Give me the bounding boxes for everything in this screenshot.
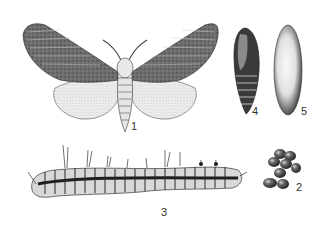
label-eggs: 2	[296, 182, 302, 193]
life-cycle-illustration	[0, 0, 326, 236]
caterpillar	[28, 145, 247, 197]
adult-moth	[23, 24, 218, 132]
pupa	[234, 28, 259, 114]
label-adult-moth: 1	[131, 121, 137, 132]
label-cocoon: 5	[301, 106, 307, 117]
label-pupa: 4	[252, 106, 258, 117]
cocoon	[274, 25, 302, 115]
label-caterpillar: 3	[161, 207, 167, 218]
